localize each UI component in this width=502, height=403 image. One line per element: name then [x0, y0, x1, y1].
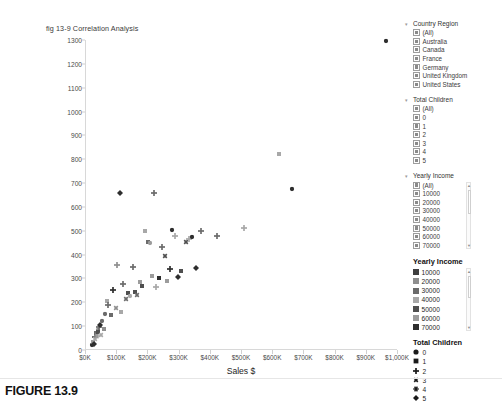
filter-option[interactable]: Australia	[404, 37, 502, 46]
data-point[interactable]	[175, 274, 181, 280]
legend-item[interactable]: 0	[404, 348, 502, 357]
data-point[interactable]	[172, 233, 178, 239]
data-point[interactable]	[118, 309, 123, 314]
filter-option[interactable]: 40000	[404, 215, 502, 224]
checkbox-icon[interactable]	[413, 140, 420, 147]
data-point[interactable]	[277, 152, 282, 157]
data-point[interactable]	[100, 319, 105, 324]
data-point[interactable]	[147, 240, 152, 245]
data-point[interactable]	[114, 262, 120, 268]
data-point[interactable]	[120, 281, 126, 287]
checkbox-icon[interactable]	[413, 225, 420, 232]
filter-option[interactable]: 5	[404, 156, 502, 165]
filter-option[interactable]: (All)	[404, 29, 502, 38]
chevron-down-icon[interactable]: ▾	[405, 97, 411, 103]
data-point[interactable]	[105, 302, 111, 308]
data-point[interactable]	[289, 187, 294, 192]
scroll-down-icon[interactable]: ▼	[467, 243, 470, 248]
data-point[interactable]	[128, 294, 133, 299]
filter-option[interactable]: 10000	[404, 189, 502, 198]
legend-scrollbar[interactable]: ▲▼	[466, 182, 471, 249]
legend-item[interactable]: 30000	[404, 286, 502, 295]
legend-item[interactable]: 5	[404, 394, 502, 403]
checkbox-icon[interactable]	[413, 199, 420, 206]
data-point[interactable]	[117, 190, 123, 196]
legend-item[interactable]: 4	[404, 385, 502, 394]
checkbox-icon[interactable]	[413, 46, 420, 53]
data-point[interactable]	[159, 244, 165, 250]
filter-option[interactable]: 70000	[404, 241, 502, 250]
filter-option[interactable]: (All)	[404, 105, 502, 114]
data-point[interactable]	[130, 264, 136, 270]
checkbox-icon[interactable]	[413, 55, 420, 62]
filter-option[interactable]: 3	[404, 139, 502, 148]
chevron-down-icon[interactable]: ▾	[405, 21, 411, 27]
data-point[interactable]	[151, 190, 157, 196]
checkbox-icon[interactable]	[413, 123, 420, 130]
scatter-plot-area[interactable]	[85, 40, 397, 350]
data-point[interactable]	[102, 326, 107, 331]
data-point[interactable]	[153, 284, 159, 290]
checkbox-icon[interactable]	[413, 207, 420, 214]
data-point[interactable]	[149, 274, 154, 279]
checkbox-icon[interactable]	[413, 38, 420, 45]
legend-item[interactable]: 40000	[404, 295, 502, 304]
legend-item[interactable]: 1	[404, 357, 502, 366]
scroll-down-icon[interactable]: ▼	[467, 325, 470, 330]
checkbox-icon[interactable]	[413, 190, 420, 197]
chevron-down-icon[interactable]: ▾	[405, 173, 411, 179]
legend-item[interactable]: 10000	[404, 268, 502, 277]
legend-scrollbar[interactable]: ▲▼	[466, 268, 471, 330]
filter-option[interactable]: 50000	[404, 224, 502, 233]
checkbox-icon[interactable]	[413, 216, 420, 223]
checkbox-icon[interactable]	[413, 242, 420, 249]
filter-option[interactable]: 0	[404, 113, 502, 122]
scroll-up-icon[interactable]: ▲	[467, 269, 470, 274]
filter-option[interactable]: 20000	[404, 198, 502, 207]
checkbox-icon[interactable]	[413, 72, 420, 79]
data-point[interactable]	[179, 269, 184, 274]
data-point[interactable]	[103, 312, 108, 317]
filter-option[interactable]: United Kingdom	[404, 71, 502, 80]
checkbox-icon[interactable]	[413, 131, 420, 138]
legend-item[interactable]: 60000	[404, 314, 502, 323]
filter-option[interactable]: United States	[404, 80, 502, 89]
filter-option[interactable]: 4	[404, 148, 502, 157]
data-point[interactable]	[108, 313, 113, 318]
data-point[interactable]	[98, 332, 104, 338]
data-point[interactable]	[134, 292, 140, 298]
data-point[interactable]	[167, 266, 173, 272]
filter-option[interactable]: Canada	[404, 46, 502, 55]
filter-option[interactable]: 2	[404, 130, 502, 139]
legend-item[interactable]: 50000	[404, 304, 502, 313]
filter-option[interactable]: 60000	[404, 232, 502, 241]
checkbox-icon[interactable]	[413, 114, 420, 121]
legend-item[interactable]: 70000	[404, 323, 502, 332]
filter-option[interactable]: Germany	[404, 63, 502, 72]
data-point[interactable]	[214, 233, 220, 239]
checkbox-icon[interactable]	[413, 157, 420, 164]
filter-option[interactable]: 30000	[404, 207, 502, 216]
data-point[interactable]	[193, 265, 199, 271]
scrollbar-thumb[interactable]	[468, 190, 471, 213]
checkbox-icon[interactable]	[413, 105, 420, 112]
checkbox-icon[interactable]	[413, 182, 420, 189]
checkbox-icon[interactable]	[413, 81, 420, 88]
filter-option[interactable]: 1	[404, 122, 502, 131]
data-point[interactable]	[157, 276, 162, 281]
data-point[interactable]	[169, 227, 174, 232]
data-point[interactable]	[143, 228, 148, 233]
data-point[interactable]	[110, 287, 116, 293]
checkbox-icon[interactable]	[413, 29, 420, 36]
checkbox-icon[interactable]	[413, 148, 420, 155]
legend-item[interactable]: 20000	[404, 277, 502, 286]
data-point[interactable]	[241, 225, 247, 231]
scroll-up-icon[interactable]: ▲	[467, 183, 470, 188]
data-point[interactable]	[383, 39, 388, 44]
checkbox-icon[interactable]	[413, 233, 420, 240]
legend-item[interactable]: 2	[404, 366, 502, 375]
scrollbar-thumb[interactable]	[468, 276, 471, 298]
filter-option[interactable]: (All)	[404, 181, 502, 190]
checkbox-icon[interactable]	[413, 64, 420, 71]
filter-option[interactable]: France	[404, 54, 502, 63]
